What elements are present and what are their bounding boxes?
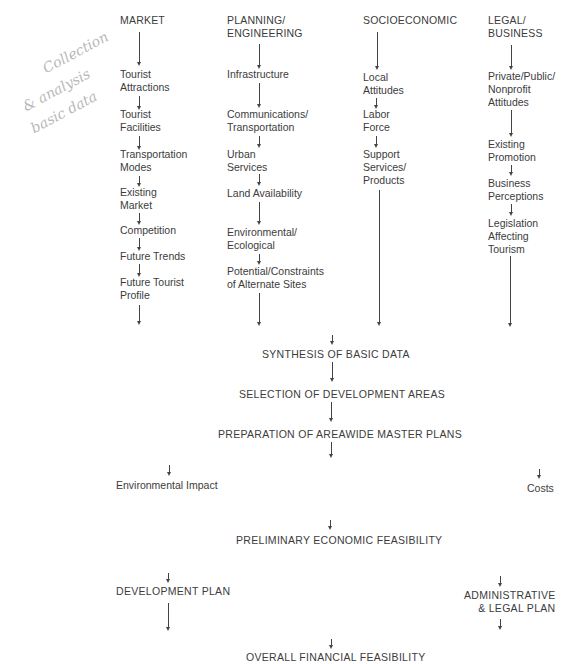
arrow-down-icon	[139, 238, 140, 248]
socioeconomic-item: Support Services/ Products	[363, 148, 406, 187]
legal-item: Business Perceptions	[488, 177, 543, 203]
arrow-down-icon	[259, 202, 260, 222]
legal-item: Legislation Affecting Tourism	[488, 217, 538, 256]
planning-item: Land Availability	[227, 187, 302, 200]
arrow-down-icon	[511, 110, 512, 134]
arrow-down-icon	[331, 442, 332, 455]
arrow-down-icon	[139, 264, 140, 274]
arrow-down-icon	[539, 469, 540, 476]
arrow-down-icon	[331, 639, 332, 646]
market-item: Existing Market	[120, 186, 157, 212]
planning-item: Potential/Constraints of Alternate Sites	[227, 265, 324, 291]
socioeconomic-item: Local Attitudes	[363, 71, 404, 97]
arrow-down-icon	[511, 165, 512, 173]
market-item: Tourist Attractions	[120, 68, 170, 94]
arrow-down-icon	[376, 98, 377, 106]
arrow-down-icon	[139, 176, 140, 184]
arrow-down-icon	[511, 204, 512, 213]
arrow-down-icon	[330, 520, 331, 527]
stage-synthesis: SYNTHESIS OF BASIC DATA	[262, 348, 410, 361]
arrow-down-icon	[511, 45, 512, 67]
arrow-down-icon	[332, 335, 333, 342]
market-item: Transportation Modes	[120, 148, 187, 174]
stage-preparation: PREPARATION OF AREAWIDE MASTER PLANS	[218, 428, 462, 441]
arrow-down-icon	[139, 305, 140, 322]
arrow-down-icon	[259, 136, 260, 145]
arrow-down-icon	[500, 619, 501, 627]
arrow-down-icon	[259, 44, 260, 66]
arrow-down-icon	[139, 32, 140, 63]
arrow-down-icon	[169, 465, 170, 473]
planning-item: Communications/ Transportation	[227, 108, 308, 134]
planning-item: Urban Services	[227, 148, 267, 174]
stage-selection: SELECTION OF DEVELOPMENT AREAS	[239, 388, 445, 401]
arrow-down-icon	[332, 362, 333, 379]
planning-item: Infrastructure	[227, 68, 289, 81]
stage-preliminary-feasibility: PRELIMINARY ECONOMIC FEASIBILITY	[236, 534, 442, 547]
arrow-down-icon	[500, 576, 501, 584]
stage-costs: Costs	[527, 482, 554, 495]
stage-development-plan: DEVELOPMENT PLAN	[116, 585, 230, 598]
note-line-1: Collection	[40, 28, 111, 76]
arrow-down-icon	[168, 573, 169, 580]
market-item: Future Tourist Profile	[120, 276, 184, 302]
arrow-down-icon	[139, 96, 140, 107]
arrow-down-icon	[510, 256, 511, 324]
arrow-down-icon	[259, 83, 260, 105]
arrow-down-icon	[377, 32, 378, 67]
legal-header: LEGAL/ BUSINESS	[488, 14, 543, 40]
planning-header: PLANNING/ ENGINEERING	[227, 14, 303, 40]
arrow-down-icon	[259, 174, 260, 183]
arrow-down-icon	[168, 603, 169, 628]
arrow-down-icon	[139, 136, 140, 147]
market-header: MARKET	[120, 14, 165, 27]
planning-item: Environmental/ Ecological	[227, 226, 297, 252]
market-item: Tourist Facilities	[120, 108, 161, 134]
arrow-down-icon	[139, 213, 140, 222]
arrow-down-icon	[259, 293, 260, 323]
arrow-down-icon	[331, 402, 332, 419]
socioeconomic-item: Labor Force	[363, 108, 390, 134]
market-item: Future Trends	[120, 250, 185, 263]
socioeconomic-header: SOCIOECONOMIC	[363, 14, 457, 27]
market-item: Competition	[120, 224, 176, 237]
stage-overall-financial-feasibility: OVERALL FINANCIAL FEASIBILITY	[246, 651, 425, 664]
arrow-down-icon	[376, 136, 377, 145]
arrow-down-icon	[259, 254, 260, 262]
legal-item: Private/Public/ Nonprofit Attitudes	[488, 70, 555, 109]
arrow-down-icon	[379, 190, 380, 323]
legal-item: Existing Promotion	[488, 138, 536, 164]
stage-admin-legal-plan: ADMINISTRATIVE & LEGAL PLAN	[464, 589, 556, 615]
stage-environmental-impact: Environmental Impact	[116, 479, 218, 492]
